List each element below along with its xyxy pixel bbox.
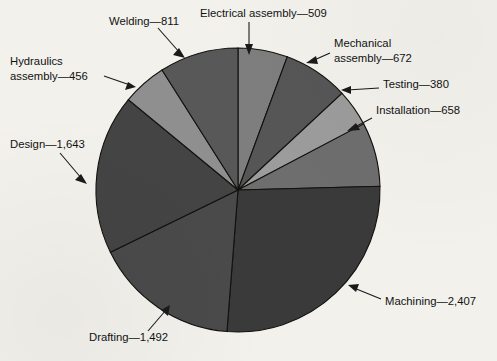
callout-label-line: Machining—2,407 (385, 295, 476, 307)
leader-line-drafting (148, 310, 166, 331)
pie-slices-group (96, 48, 380, 332)
arrowhead-mechanical-assembly (306, 56, 318, 64)
callout-label-hydraulics-assembly: Hydraulicsassembly—456 (10, 55, 88, 82)
arrowhead-machining (348, 284, 359, 292)
pie-chart-figure: Electrical assembly—509Welding—811Mechan… (0, 0, 497, 361)
callout-label-line: Design—1,643 (10, 138, 85, 150)
leader-line-hydraulics-assembly (104, 76, 130, 85)
leader-line-welding (158, 28, 180, 53)
callout-label-line: Welding—811 (109, 15, 179, 27)
callout-label-electrical-assembly: Electrical assembly—509 (200, 7, 327, 19)
leader-line-design (60, 153, 82, 179)
callout-label-drafting: Drafting—1,492 (89, 331, 168, 343)
callout-label-line: Installation—658 (376, 104, 460, 116)
pie-chart-canvas: Electrical assembly—509Welding—811Mechan… (0, 0, 497, 361)
callout-label-line: Hydraulics (10, 55, 63, 67)
callout-label-design: Design—1,643 (10, 138, 85, 150)
callout-label-line: assembly—672 (334, 52, 412, 64)
arrowhead-testing (341, 86, 351, 94)
callout-label-mechanical-assembly: Mechanicalassembly—672 (334, 37, 412, 64)
callout-label-line: Drafting—1,492 (89, 331, 168, 343)
callout-label-line: Mechanical (334, 37, 391, 49)
callout-label-line: Electrical assembly—509 (200, 7, 327, 19)
callout-label-testing: Testing—380 (383, 78, 449, 90)
leader-line-machining (354, 288, 381, 299)
arrowhead-welding (173, 48, 185, 58)
callout-label-welding: Welding—811 (109, 15, 179, 27)
callout-label-installation: Installation—658 (376, 104, 460, 116)
callout-label-machining: Machining—2,407 (385, 295, 476, 307)
callout-label-line: Testing—380 (383, 78, 449, 90)
arrowhead-hydraulics-assembly (125, 82, 136, 90)
pie-slice-machining (227, 186, 380, 332)
callout-label-line: assembly—456 (10, 70, 88, 82)
leader-line-testing (347, 88, 379, 90)
arrowhead-design (75, 174, 87, 184)
